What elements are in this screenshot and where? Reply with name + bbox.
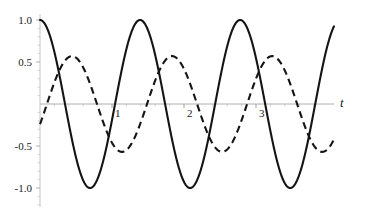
x-tick-label-2: 2 [187, 108, 193, 119]
x-axis-label-t: t [340, 96, 344, 109]
plot-canvas: 1.0 0.5 -0.5 -1.0 1 2 3 t [0, 0, 366, 217]
y-tick-label-neg-1-0: -1.0 [2, 183, 32, 194]
chart-svg [0, 0, 366, 217]
y-tick-label-1-0: 1.0 [2, 15, 32, 26]
y-tick-label-0-5: 0.5 [2, 57, 32, 68]
x-tick-label-1: 1 [115, 108, 121, 119]
x-tick-label-3: 3 [259, 108, 265, 119]
y-tick-label-neg-0-5: -0.5 [2, 141, 32, 152]
x-axis-major-ticks [112, 104, 256, 108]
